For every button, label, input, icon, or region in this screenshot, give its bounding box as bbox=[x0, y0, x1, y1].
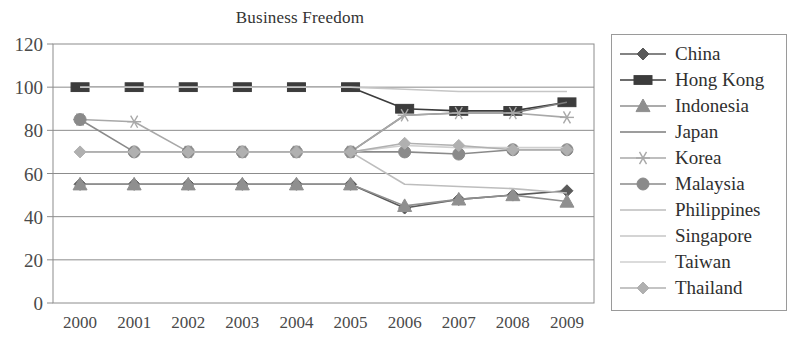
legend-item-malaysia[interactable]: Malaysia bbox=[612, 171, 786, 197]
legend-label: Singapore bbox=[675, 226, 752, 246]
legend-label: Philippines bbox=[675, 200, 761, 220]
x-axis-tick-label: 2007 bbox=[442, 313, 477, 332]
x-axis-tick-label: 2009 bbox=[550, 313, 584, 332]
chart-root: Business Freedom 02040608010012020002001… bbox=[0, 0, 796, 344]
legend-label: Thailand bbox=[675, 278, 743, 298]
legend-key-none-icon bbox=[618, 226, 668, 246]
legend-label: Taiwan bbox=[675, 252, 731, 272]
y-axis-tick-label: 120 bbox=[15, 34, 44, 55]
line-chart-svg: 0204060801001202000200120022003200420052… bbox=[0, 0, 600, 344]
legend-key-diamond-icon bbox=[618, 44, 668, 64]
legend-item-indonesia[interactable]: Indonesia bbox=[612, 93, 786, 119]
legend-key-none-icon bbox=[618, 122, 668, 142]
x-axis-tick-label: 2002 bbox=[171, 313, 205, 332]
legend-key-square-icon bbox=[618, 70, 668, 90]
x-axis-tick-label: 2003 bbox=[225, 313, 259, 332]
chart-legend: ChinaHong KongIndonesiaJapanKoreaMalaysi… bbox=[611, 34, 787, 311]
legend-label: Hong Kong bbox=[675, 70, 764, 90]
legend-label: Japan bbox=[675, 122, 718, 142]
legend-item-philippines[interactable]: Philippines bbox=[612, 197, 786, 223]
legend-key-none-icon bbox=[618, 200, 668, 220]
x-axis-tick-label: 2004 bbox=[279, 313, 314, 332]
x-axis-tick-label: 2006 bbox=[388, 313, 422, 332]
y-axis-tick-label: 0 bbox=[34, 293, 44, 314]
legend-label: Korea bbox=[675, 148, 721, 168]
legend-item-singapore[interactable]: Singapore bbox=[612, 223, 786, 249]
legend-item-taiwan[interactable]: Taiwan bbox=[612, 249, 786, 275]
legend-item-hong-kong[interactable]: Hong Kong bbox=[612, 67, 786, 93]
x-axis-tick-label: 2005 bbox=[334, 313, 368, 332]
y-axis-tick-label: 60 bbox=[24, 164, 43, 185]
plot-area: 0204060801001202000200120022003200420052… bbox=[0, 0, 600, 344]
legend-label: Indonesia bbox=[675, 96, 749, 116]
legend-label: China bbox=[675, 44, 720, 64]
legend-item-thailand[interactable]: Thailand bbox=[612, 275, 786, 301]
legend-key-circle-icon bbox=[618, 174, 668, 194]
y-axis-tick-label: 100 bbox=[15, 77, 44, 98]
x-axis-tick-label: 2000 bbox=[63, 313, 97, 332]
x-axis-tick-label: 2001 bbox=[117, 313, 151, 332]
legend-key-star-icon bbox=[618, 148, 668, 168]
x-axis-tick-label: 2008 bbox=[496, 313, 530, 332]
legend-key-none-icon bbox=[618, 252, 668, 272]
y-axis-tick-label: 40 bbox=[24, 207, 43, 228]
legend-item-korea[interactable]: Korea bbox=[612, 145, 786, 171]
y-axis-tick-label: 80 bbox=[24, 120, 43, 141]
legend-item-china[interactable]: China bbox=[612, 41, 786, 67]
legend-key-triangle-icon bbox=[618, 96, 668, 116]
y-axis-tick-label: 20 bbox=[24, 250, 43, 271]
legend-item-japan[interactable]: Japan bbox=[612, 119, 786, 145]
legend-key-diamond-light-icon bbox=[618, 278, 668, 298]
legend-label: Malaysia bbox=[675, 174, 745, 194]
